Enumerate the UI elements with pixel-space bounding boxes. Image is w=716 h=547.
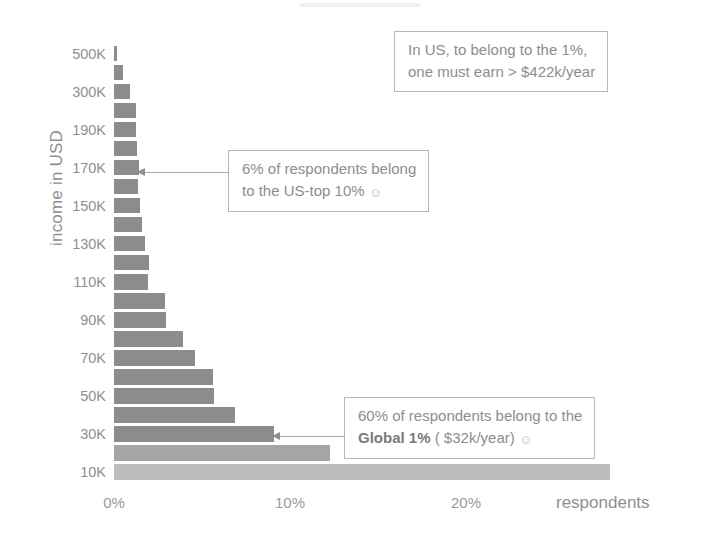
bar-130K xyxy=(114,236,145,252)
y-tick-label-10K: 10K xyxy=(80,465,106,479)
bar-row xyxy=(114,101,710,120)
y-axis-tick-labels: 500K300K190K170K150K130K110K90K70K50K30K… xyxy=(48,44,106,482)
bar-170K xyxy=(114,160,139,176)
bar-230K xyxy=(114,103,136,119)
bar-50K xyxy=(114,388,214,404)
leader-line-global-one-percent xyxy=(278,436,345,437)
bar-row xyxy=(114,272,710,291)
y-tick-label-130K: 130K xyxy=(72,237,106,251)
bar-120K xyxy=(114,255,149,271)
callout-us-top-ten: 6% of respondents belong to the US-top 1… xyxy=(228,150,429,212)
arrow-left-icon-us-top-ten xyxy=(137,168,145,176)
x-tick-label-0pct: 0% xyxy=(103,494,125,511)
callout-us-top-ten-line1: 6% of respondents belong xyxy=(242,158,416,180)
smiley-icon: ☺ xyxy=(369,184,382,203)
bar-70K xyxy=(114,350,195,366)
arrow-left-icon-global-one-percent xyxy=(272,432,280,440)
bar-row xyxy=(114,463,710,482)
bar-160K xyxy=(114,179,138,195)
y-tick-label-190K: 190K xyxy=(72,123,106,137)
callout-global-one-percent-bold: Global 1% xyxy=(358,429,431,446)
bar-row xyxy=(114,253,710,272)
leader-line-us-top-ten xyxy=(143,172,229,173)
callout-global-one-percent-line2: Global 1% ( $32k/year) ☺ xyxy=(358,427,582,450)
bar-20K xyxy=(114,445,330,461)
y-tick-label-500K: 500K xyxy=(72,47,106,61)
smiley-icon: ☺ xyxy=(519,431,532,450)
callout-us-one-percent-line2: one must earn > $422k/year xyxy=(408,61,595,83)
bar-300K xyxy=(114,84,130,100)
x-axis-title: respondents xyxy=(556,493,650,513)
bar-row xyxy=(114,329,710,348)
y-tick-label-30K: 30K xyxy=(80,427,106,441)
bar-140K xyxy=(114,217,142,233)
callout-us-top-ten-line2-text: to the US-top 10% xyxy=(242,182,365,199)
bar-row xyxy=(114,291,710,310)
bar-110K xyxy=(114,274,148,290)
bar-100K xyxy=(114,293,165,309)
y-tick-label-170K: 170K xyxy=(72,161,106,175)
x-tick-label-10pct: 10% xyxy=(275,494,305,511)
callout-us-top-ten-line2: to the US-top 10% ☺ xyxy=(242,180,416,203)
callout-us-one-percent-line1: In US, to belong to the 1%, xyxy=(408,39,595,61)
bar-40K xyxy=(114,407,235,423)
bar-500K xyxy=(114,46,117,62)
y-tick-label-50K: 50K xyxy=(80,389,106,403)
bar-30K xyxy=(114,426,274,442)
bar-row xyxy=(114,215,710,234)
callout-global-one-percent-line1: 60% of respondents belong to the xyxy=(358,405,582,427)
bar-10K xyxy=(114,464,610,480)
bar-row xyxy=(114,234,710,253)
y-tick-label-70K: 70K xyxy=(80,351,106,365)
bar-row xyxy=(114,310,710,329)
y-tick-label-150K: 150K xyxy=(72,199,106,213)
bar-80K xyxy=(114,331,183,347)
bar-60K xyxy=(114,369,213,385)
bar-150K xyxy=(114,198,140,214)
bar-180K xyxy=(114,141,137,157)
scan-artifact xyxy=(300,3,420,7)
bar-row xyxy=(114,349,710,368)
income-distribution-bar-chart: income in USD 500K300K190K170K150K130K11… xyxy=(0,0,716,547)
x-tick-label-20pct: 20% xyxy=(451,494,481,511)
y-tick-label-110K: 110K xyxy=(73,275,106,289)
bar-400K xyxy=(114,65,123,81)
callout-us-one-percent: In US, to belong to the 1%, one must ear… xyxy=(394,31,608,92)
y-tick-label-90K: 90K xyxy=(80,313,106,327)
callout-global-one-percent: 60% of respondents belong to the Global … xyxy=(344,397,595,459)
bar-row xyxy=(114,368,710,387)
y-tick-label-300K: 300K xyxy=(72,85,106,99)
callout-global-one-percent-rest: ( $32k/year) xyxy=(431,429,515,446)
bar-row xyxy=(114,120,710,139)
bar-190K xyxy=(114,122,136,138)
bar-90K xyxy=(114,312,166,328)
